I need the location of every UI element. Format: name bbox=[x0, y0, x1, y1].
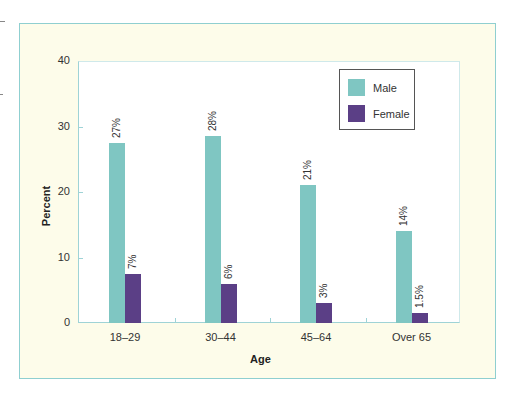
x-tick-mark bbox=[270, 318, 271, 323]
bar-female bbox=[412, 313, 428, 323]
y-tick-mark bbox=[78, 192, 83, 193]
legend-label-female: Female bbox=[373, 108, 410, 120]
y-tick-label: 0 bbox=[40, 316, 70, 328]
bar-value-label: 1.5% bbox=[414, 285, 425, 308]
x-tick-mark bbox=[366, 318, 367, 323]
bar-value-label: 28% bbox=[207, 111, 218, 131]
bar-value-label: 21% bbox=[302, 160, 313, 180]
x-tick-label: 18–29 bbox=[85, 331, 165, 343]
bar-male bbox=[109, 143, 125, 323]
edge-tick-mark bbox=[0, 94, 3, 95]
bar-male bbox=[396, 231, 412, 323]
x-tick-label: 30–44 bbox=[181, 331, 261, 343]
bar-female bbox=[221, 284, 237, 323]
y-axis-title: Percent bbox=[40, 186, 52, 226]
y-tick-mark bbox=[78, 258, 83, 259]
legend-swatch-male bbox=[348, 79, 365, 96]
bar-male bbox=[300, 185, 316, 323]
legend-label-male: Male bbox=[373, 82, 397, 94]
x-tick-mark bbox=[175, 318, 176, 323]
bar-value-label: 27% bbox=[111, 118, 122, 138]
y-tick-label: 30 bbox=[40, 120, 70, 132]
bar-female bbox=[125, 274, 141, 323]
x-tick-label: 45–64 bbox=[276, 331, 356, 343]
bar-value-label: 6% bbox=[223, 264, 234, 278]
bar-male bbox=[205, 136, 221, 323]
legend-item-male: Male bbox=[348, 79, 397, 96]
legend: Male Female bbox=[339, 69, 415, 130]
bar-value-label: 7% bbox=[127, 254, 138, 268]
y-tick-label: 40 bbox=[40, 54, 70, 66]
x-tick-label: Over 65 bbox=[372, 331, 452, 343]
legend-item-female: Female bbox=[348, 105, 410, 122]
bar-female bbox=[316, 303, 332, 323]
bar-value-label: 14% bbox=[398, 206, 409, 226]
x-axis-title: Age bbox=[250, 353, 271, 365]
bar-value-label: 3% bbox=[318, 284, 329, 298]
legend-swatch-female bbox=[348, 105, 365, 122]
y-tick-label: 10 bbox=[40, 251, 70, 263]
y-tick-mark bbox=[78, 127, 83, 128]
edge-tick-mark bbox=[0, 21, 5, 22]
